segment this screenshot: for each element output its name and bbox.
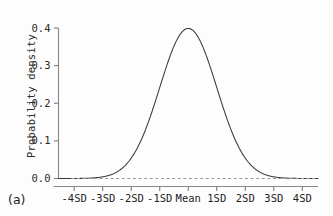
figure-panel-a: Probability density (a) 0.00.10.20.30.4 … <box>0 0 333 216</box>
x-tick-label: -1SD <box>147 192 172 204</box>
x-tick-label: -2SD <box>119 192 144 204</box>
data-series <box>59 28 319 178</box>
x-tick-label: -4SD <box>62 192 87 204</box>
x-tick-label: 3SD <box>264 192 283 204</box>
x-tick-label: 4SD <box>293 192 312 204</box>
y-tick-label: 0.1 <box>32 134 51 146</box>
y-tick-label: 0.0 <box>32 172 51 184</box>
x-tick-label: 2SD <box>236 192 255 204</box>
normal-distribution-plot: 0.00.10.20.30.4 -4SD-3SD-2SD-1SDMean1SD2… <box>0 0 333 216</box>
x-tick-label: Mean <box>176 192 201 204</box>
y-axis: 0.00.10.20.30.4 <box>32 22 59 184</box>
x-tick-label: 1SD <box>207 192 226 204</box>
x-axis: -4SD-3SD-2SD-1SDMean1SD2SD3SD4SD <box>54 187 319 205</box>
x-tick-label: -3SD <box>90 192 115 204</box>
y-tick-label: 0.3 <box>32 59 51 71</box>
y-tick-label: 0.2 <box>32 97 51 109</box>
y-tick-label: 0.4 <box>32 22 51 34</box>
normal-density <box>59 28 319 178</box>
